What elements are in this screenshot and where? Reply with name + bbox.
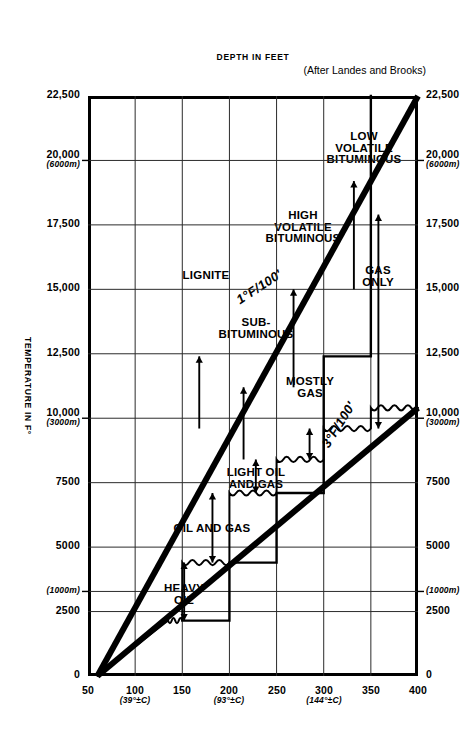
- depth-tick-bottom-1: 2500: [56, 605, 80, 616]
- plot-area: [88, 96, 418, 676]
- depth-tick-top-8: 17,500: [426, 218, 459, 229]
- x-axis-title: TEMPERATURE IN F°: [23, 337, 33, 435]
- tick-value: 17,500: [426, 217, 459, 229]
- temp-tick-0: 50: [82, 685, 94, 696]
- tick-value: 0: [74, 668, 80, 680]
- depth-tick-top-10: 22,500: [426, 89, 459, 100]
- tick-sub: (1000m): [426, 586, 460, 595]
- figure-credit: (After Landes and Brooks): [303, 64, 426, 76]
- tick-value: 22,500: [426, 88, 459, 100]
- depth-tick-bottom-8: 17,500: [47, 218, 80, 229]
- tick-value: 7500: [426, 475, 450, 487]
- temp-tick-7: 400: [409, 685, 427, 696]
- tick-sub: (39°±C): [120, 696, 151, 705]
- depth-tick-bottom-4: 7500: [56, 476, 80, 487]
- depth-tick-top-2: (1000m): [426, 586, 460, 595]
- label-oil-and-gas: OIL AND GAS: [174, 523, 251, 535]
- y-axis-title: DEPTH IN FEET: [217, 52, 290, 62]
- label-subbituminous: SUB- BITUMINOUS: [218, 317, 293, 340]
- label-lignite: LIGNITE: [182, 271, 229, 283]
- tick-value: 15,000: [47, 282, 80, 294]
- tick-sub: (3000m): [46, 418, 80, 427]
- tick-value: 400: [409, 684, 427, 696]
- tick-value: 12,500: [426, 346, 459, 358]
- tick-sub: (6000m): [46, 160, 80, 169]
- tick-value: 12,500: [47, 346, 80, 358]
- tick-value: 350: [362, 684, 380, 696]
- figure-canvas: (After Landes and Brooks) 0025002500(100…: [0, 0, 476, 736]
- depth-tick-top-7: 15,000: [426, 283, 459, 294]
- depth-tick-bottom-10: 22,500: [47, 89, 80, 100]
- depth-tick-bottom-6: 12,500: [47, 347, 80, 358]
- tick-value: 2500: [56, 604, 80, 616]
- depth-tick-bottom-0: 0: [74, 669, 80, 680]
- tick-value: 5000: [426, 540, 450, 552]
- tick-value: 17,500: [47, 217, 80, 229]
- depth-tick-top-5: 10,000(3000m): [426, 407, 460, 427]
- temp-tick-5: 300(144°±C): [306, 685, 342, 705]
- depth-tick-top-3: 5000: [426, 541, 450, 552]
- depth-tick-top-9: 20,000(6000m): [426, 149, 460, 169]
- depth-tick-bottom-3: 5000: [56, 541, 80, 552]
- label-low-volatile-bituminous: LOW VOLATILE BITUMINOUS: [327, 130, 402, 165]
- tick-sub: (1000m): [46, 586, 80, 595]
- tick-value: 2500: [426, 604, 450, 616]
- depth-tick-bottom-9: 20,000(6000m): [46, 149, 80, 169]
- temp-tick-2: 150: [173, 685, 191, 696]
- depth-tick-top-1: 2500: [426, 605, 450, 616]
- label-high-volatile-bituminous: HIGH VOLATILE BITUMINOUS: [266, 210, 341, 245]
- temp-tick-1: 100(39°±C): [120, 685, 151, 705]
- depth-tick-bottom-5: 10,000(3000m): [46, 407, 80, 427]
- depth-tick-bottom-2: (1000m): [46, 586, 80, 595]
- tick-value: 22,500: [47, 88, 80, 100]
- tick-value: 7500: [56, 475, 80, 487]
- tick-value: 150: [173, 684, 191, 696]
- label-mostly-gas: MOSTLY GAS: [286, 376, 334, 399]
- tick-sub: (6000m): [426, 160, 460, 169]
- depth-tick-top-6: 12,500: [426, 347, 459, 358]
- temp-tick-6: 350: [362, 685, 380, 696]
- label-light-oil-and-gas: LIGHT OIL AND GAS: [227, 466, 286, 489]
- label-heavy-oil: HEAVY OIL: [164, 582, 204, 605]
- depth-tick-top-0: 0: [426, 669, 432, 680]
- tick-value: 5000: [56, 540, 80, 552]
- tick-sub: (3000m): [426, 418, 460, 427]
- tick-sub: (144°±C): [306, 696, 342, 705]
- depth-tick-bottom-7: 15,000: [47, 283, 80, 294]
- depth-tick-top-4: 7500: [426, 476, 450, 487]
- tick-value: 50: [82, 684, 94, 696]
- tick-value: 0: [426, 668, 432, 680]
- label-gas-only: GAS ONLY: [363, 265, 395, 288]
- tick-value: 15,000: [426, 282, 459, 294]
